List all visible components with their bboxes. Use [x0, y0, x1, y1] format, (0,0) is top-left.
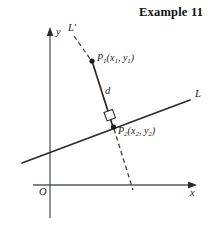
line-L-prime-label: L' [68, 23, 76, 34]
point-P1-comma: , y [118, 52, 127, 63]
point-P2-comma: , y [139, 125, 148, 136]
right-angle-marker [104, 109, 116, 121]
page-title: Example 11 [139, 6, 203, 19]
point-P2-y-subscript: 2 [148, 130, 152, 138]
point-P1-dot [89, 58, 94, 63]
line-L [22, 100, 190, 163]
distance-label-d: d [105, 86, 110, 97]
point-P1-x-subscript: 1 [114, 57, 118, 65]
point-P1-label: P1(x1, y1) [97, 53, 134, 63]
point-P1-y-subscript: 1 [127, 57, 131, 65]
point-P2-dot [111, 124, 116, 129]
point-P1-close: ) [131, 52, 134, 63]
point-P2-subscript: 2 [124, 130, 128, 138]
y-axis-label: y [56, 27, 61, 38]
line-L-label: L [195, 89, 201, 100]
line-L-prime-upper [74, 36, 91, 60]
point-P2-close: ) [152, 125, 155, 136]
point-P2-label: P2(x2, y2) [118, 126, 155, 136]
origin-label: O [39, 187, 47, 198]
example-11-figure: Example 11 y x O L L' d P1(x1, y1) P2(x2… [0, 0, 215, 227]
y-axis-arrowhead [47, 27, 54, 36]
x-axis-label: x [190, 188, 195, 199]
point-P1-subscript: 1 [103, 57, 107, 65]
point-P2-x-subscript: 2 [135, 130, 139, 138]
line-L-prime-lower [114, 129, 133, 190]
geometry-diagram [0, 0, 215, 227]
